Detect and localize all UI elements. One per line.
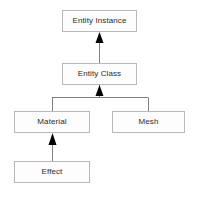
node-entity-class[interactable]: Entity Class: [62, 63, 137, 85]
node-mesh[interactable]: Mesh: [112, 111, 185, 133]
node-material[interactable]: Material: [14, 111, 90, 133]
node-material-label: Material: [37, 118, 66, 126]
arrowhead-material: [49, 133, 57, 145]
node-effect[interactable]: Effect: [14, 161, 90, 183]
node-effect-label: Effect: [42, 168, 63, 176]
arrowhead-entity-instance: [96, 32, 104, 43]
arrowhead-entity-class: [96, 85, 104, 96]
node-entity-instance-label: Entity Instance: [73, 17, 127, 25]
node-entity-instance[interactable]: Entity Instance: [62, 10, 137, 32]
node-mesh-label: Mesh: [139, 118, 159, 126]
diagram-canvas: Entity Instance Entity Class Material Me…: [0, 0, 197, 197]
node-entity-class-label: Entity Class: [78, 70, 121, 78]
